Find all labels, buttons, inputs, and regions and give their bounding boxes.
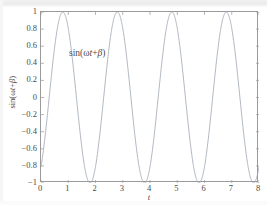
ylabel-beta-symbol: β [7, 79, 17, 83]
x-tick-label: 8 [248, 184, 267, 193]
chart-page: 10.80.60.40.20−0.2−0.4−0.6−0.8−1 sin(ωt+… [0, 0, 267, 205]
y-axis-title: sin(ωt+β) [8, 44, 17, 140]
x-axis-title: t [40, 193, 258, 202]
bottom-scan-band [0, 201, 267, 205]
x-tick-label: 3 [112, 184, 132, 193]
y-axis-tick-labels: 10.80.60.40.20−0.2−0.4−0.6−0.8−1 [0, 11, 37, 182]
x-axis-title-text: t [148, 192, 150, 202]
y-tick-label: 0.4 [0, 58, 37, 67]
plot-area [40, 11, 258, 182]
tick-marks [41, 12, 259, 183]
ylabel-plus-symbol: + [7, 83, 17, 88]
y-tick-label: −0.6 [0, 144, 37, 153]
sine-curve-svg [41, 12, 259, 183]
y-tick-label: −0.4 [0, 127, 37, 136]
x-tick-label: 6 [194, 184, 214, 193]
x-tick-label: 0 [30, 184, 50, 193]
x-tick-label: 1 [57, 184, 77, 193]
ylabel-omega-symbol: ω [7, 90, 17, 96]
x-tick-label: 5 [166, 184, 186, 193]
y-tick-label: 0.6 [0, 41, 37, 50]
y-tick-label: 0.2 [0, 75, 37, 84]
x-tick-label: 7 [221, 184, 241, 193]
y-tick-label: −0.8 [0, 161, 37, 170]
annotation-prefix: sin( [69, 48, 83, 58]
y-tick-label: 0.8 [0, 24, 37, 33]
ylabel-suffix: ) [7, 76, 17, 79]
y-tick-label: 0 [0, 93, 37, 102]
ylabel-prefix: sin( [7, 96, 17, 109]
sine-curve [41, 12, 259, 183]
x-tick-label: 2 [85, 184, 105, 193]
curve-annotation: sin(ωt+β) [69, 49, 105, 59]
y-tick-label: −0.2 [0, 110, 37, 119]
annotation-suffix: ) [102, 48, 105, 58]
y-tick-label: 1 [0, 7, 37, 16]
top-scan-band [0, 0, 267, 7]
